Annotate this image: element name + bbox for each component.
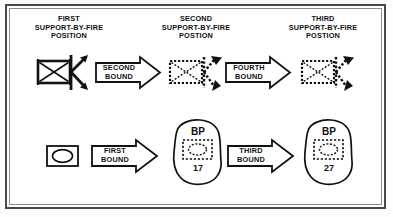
battle-position-27-label: BP [312, 126, 346, 137]
armor-unit-solid-icon [38, 59, 70, 85]
fourth-bound-label: FOURTH BOUND [228, 63, 270, 81]
armor-unit-dashed-icon [170, 61, 202, 83]
third-position-label: THIRD SUPPORT-BY-FIRE POSTION [268, 15, 378, 41]
second-bound-label: SECOND BOUND [98, 63, 140, 81]
second-position-label: SECOND SUPPORT-BY-FIRE POSTION [141, 15, 251, 41]
support-by-fire-arrow-dashed-icon [336, 56, 354, 91]
mechanized-unit-icon [47, 146, 78, 166]
first-position-label: FIRST SUPPORT-BY-FIRE POSITION [14, 15, 124, 41]
support-by-fire-arrow-solid-icon [71, 55, 88, 90]
battle-position-17-number: 17 [181, 163, 215, 173]
support-by-fire-arrow-dashed-icon [204, 56, 222, 91]
third-bound-label: THIRD BOUND [230, 146, 272, 164]
battle-position-27-number: 27 [312, 163, 346, 173]
armor-unit-dashed-icon [302, 61, 334, 83]
first-bound-label: FIRST BOUND [94, 146, 136, 164]
tactical-bounding-overwatch-diagram: FIRST SUPPORT-BY-FIRE POSITION SECOND SU… [0, 0, 393, 217]
battle-position-17-label: BP [181, 126, 215, 137]
